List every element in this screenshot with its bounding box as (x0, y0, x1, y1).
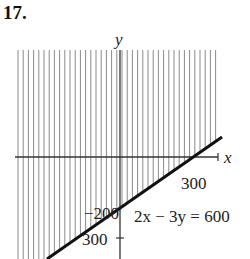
x-axis-label: x (223, 148, 232, 167)
inequality-graph: x y 300 −200 300 2x − 3y = 600 (0, 0, 250, 259)
y-tick-label: 300 (82, 230, 108, 249)
shaded-region (18, 50, 216, 259)
boundary-line (47, 137, 222, 259)
x-intercept-label: 300 (181, 174, 207, 193)
y-intercept-label: −200 (84, 204, 119, 223)
equation-label: 2x − 3y = 600 (134, 207, 230, 226)
y-axis-label: y (113, 30, 123, 49)
